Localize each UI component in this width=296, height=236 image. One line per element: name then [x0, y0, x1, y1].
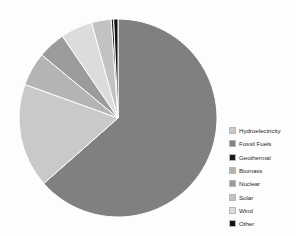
legend-item-label: Hydroelectricity — [239, 127, 281, 134]
legend-item-label: Nuclear — [239, 180, 260, 187]
legend-item-nuclear[interactable]: Nuclear — [229, 177, 295, 190]
legend-swatch-icon — [229, 127, 236, 134]
legend-item-solar[interactable]: Solar — [229, 190, 295, 203]
chart-legend: HydroelectricityFossil FuelsGeothermalBi… — [229, 124, 295, 230]
legend-item-label: Solar — [239, 194, 253, 201]
legend-item-wind[interactable]: Wind — [229, 204, 295, 217]
pie-chart — [18, 18, 218, 218]
legend-swatch-icon — [229, 220, 236, 227]
legend-swatch-icon — [229, 180, 236, 187]
legend-item-label: Other — [239, 220, 254, 227]
legend-item-geothermal[interactable]: Geothermal — [229, 151, 295, 164]
legend-swatch-icon — [229, 207, 236, 214]
pie-svg — [18, 18, 218, 218]
legend-item-label: Biomass — [239, 167, 262, 174]
chart-canvas: HydroelectricityFossil FuelsGeothermalBi… — [0, 0, 296, 236]
legend-item-label: Wind — [239, 207, 253, 214]
legend-item-hydroelectricity[interactable]: Hydroelectricity — [229, 124, 295, 137]
legend-swatch-icon — [229, 140, 236, 147]
legend-swatch-icon — [229, 167, 236, 174]
legend-item-label: Fossil Fuels — [239, 140, 271, 147]
legend-item-fossil-fuels[interactable]: Fossil Fuels — [229, 137, 295, 150]
pie-slice-group — [19, 19, 217, 217]
legend-item-label: Geothermal — [239, 154, 271, 161]
legend-item-biomass[interactable]: Biomass — [229, 164, 295, 177]
legend-swatch-icon — [229, 194, 236, 201]
legend-swatch-icon — [229, 154, 236, 161]
legend-item-other[interactable]: Other — [229, 217, 295, 230]
